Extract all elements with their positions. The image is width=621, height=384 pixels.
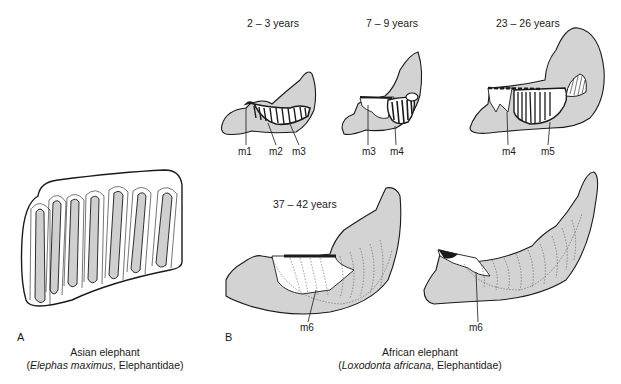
panel-letter-a: A bbox=[17, 331, 24, 343]
jaw-23-26-years bbox=[470, 28, 604, 145]
age-label-7-9: 7 – 9 years bbox=[366, 17, 418, 29]
age-label-37-42: 37 – 42 years bbox=[273, 198, 337, 210]
molar-label-m5: m5 bbox=[541, 146, 555, 157]
molar-label-m3: m3 bbox=[292, 146, 306, 157]
caption-african-common-name: African elephant bbox=[330, 346, 510, 359]
african-family: , Elephantidae) bbox=[431, 359, 502, 371]
asian-family: , Elephantidae) bbox=[113, 359, 184, 371]
molar-label-m1: m1 bbox=[238, 146, 252, 157]
age-label-2-3: 2 – 3 years bbox=[247, 17, 299, 29]
molar-label-m4: m4 bbox=[502, 146, 516, 157]
jaw-2-3-years bbox=[222, 72, 316, 145]
molar-label-m4: m4 bbox=[390, 146, 404, 157]
asian-molar bbox=[22, 170, 183, 306]
jaw-oldest bbox=[424, 172, 598, 322]
caption-african-scientific: (Loxodonta africana, Elephantidae) bbox=[330, 359, 510, 372]
jaw-7-9-years bbox=[342, 52, 422, 145]
caption-asian-elephant: Asian elephant (Elephas maximus, Elephan… bbox=[20, 346, 190, 372]
caption-asian-common-name: Asian elephant bbox=[20, 346, 190, 359]
molar-label-m6: m6 bbox=[469, 322, 483, 333]
panel-letter-b: B bbox=[225, 331, 232, 343]
molar-label-m2: m2 bbox=[269, 146, 283, 157]
african-species-name: Loxodonta africana bbox=[342, 359, 431, 371]
asian-species-name: Elephas maximus bbox=[30, 359, 113, 371]
molar-label-m3: m3 bbox=[362, 146, 376, 157]
caption-african-elephant: African elephant (Loxodonta africana, El… bbox=[330, 346, 510, 372]
caption-asian-scientific: (Elephas maximus, Elephantidae) bbox=[20, 359, 190, 372]
molar-label-m6: m6 bbox=[300, 322, 314, 333]
age-label-23-26: 23 – 26 years bbox=[496, 17, 560, 29]
